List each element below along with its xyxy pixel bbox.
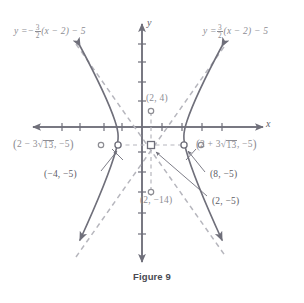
leader-vertex-right <box>188 151 205 172</box>
asymptote-right-numerator: 3 <box>217 24 223 32</box>
asymptote-label-right: y =32(x − 2) − 5 <box>203 24 268 41</box>
covertex-top-marker <box>148 108 153 113</box>
x-axis-label: x <box>266 119 271 129</box>
vertex-left-label: (−4, −5) <box>44 170 77 180</box>
center-marker <box>148 142 155 149</box>
focus-right-coefficient: 2 + 3 <box>200 139 221 149</box>
figure-caption: Figure 9 <box>0 271 304 282</box>
focus-left-label: (2 − 3√13, −5) <box>13 138 74 150</box>
center-label: (2, −5) <box>212 197 239 207</box>
vertex-right-marker <box>181 142 187 148</box>
focus-left-tail: , −5 <box>54 139 70 149</box>
asymptote-left-denominator: 2 <box>35 31 41 40</box>
covertex-top-label: (2, 4) <box>146 94 168 104</box>
leader-vertex-left <box>101 151 117 171</box>
focus-right-open-paren: ( <box>196 138 200 150</box>
figure-container: y =−32(x − 2) − 5 y =32(x − 2) − 5 x y (… <box>0 0 304 303</box>
vertex-left-marker <box>115 142 121 148</box>
asymptote-right-fraction: 32 <box>217 24 223 41</box>
asymptote-left-rest: (x − 2) − 5 <box>41 26 86 36</box>
covertex-bottom-marker <box>148 189 153 194</box>
asymptote-left-sign: − <box>28 26 35 36</box>
asymptote-left-numerator: 3 <box>35 24 41 32</box>
focus-right-tail: , −5 <box>237 139 253 149</box>
covertex-bottom-label: (2, −14) <box>140 196 172 206</box>
asymptote-right-rest: (x − 2) − 5 <box>224 26 269 36</box>
focus-left-open-paren: ( <box>13 138 17 150</box>
asymptote-left-lhs: y = <box>14 26 28 36</box>
focus-right-close-paren: ) <box>253 138 257 150</box>
focus-right-radicand: 13 <box>226 140 237 151</box>
leader-center <box>156 152 207 196</box>
focus-left-coefficient: 2 − 3 <box>17 139 38 149</box>
asymptote-right-lhs: y = <box>203 26 217 36</box>
asymptote-right-denominator: 2 <box>217 31 223 40</box>
focus-left-marker <box>98 142 103 147</box>
hyperbola-graph <box>0 0 304 303</box>
focus-right-label: (2 + 3√13, −5) <box>196 138 257 150</box>
asymptote-left-fraction: 32 <box>35 24 41 41</box>
focus-left-close-paren: ) <box>70 138 74 150</box>
focus-left-radicand: 13 <box>43 140 54 151</box>
vertex-right-label: (8, −5) <box>210 170 237 180</box>
asymptote-label-left: y =−32(x − 2) − 5 <box>14 24 86 41</box>
y-axis-label: y <box>147 18 152 28</box>
